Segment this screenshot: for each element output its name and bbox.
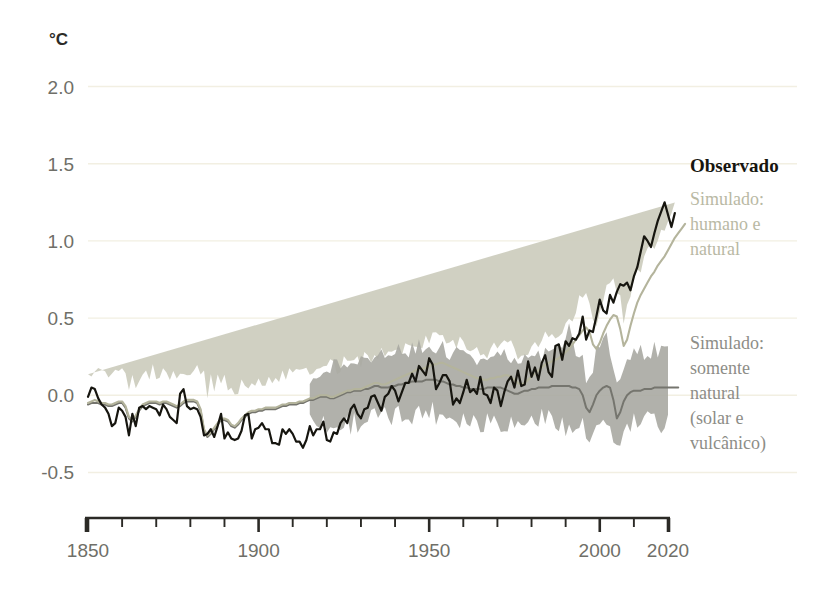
y-tick-label: -0.5 (41, 462, 74, 483)
climate-attribution-chart: -0.50.00.51.01.52.018501900195020002020°… (0, 0, 840, 592)
y-tick-label: 2.0 (48, 77, 74, 98)
x-tick-label: 1950 (408, 540, 450, 561)
x-tick-label: 2020 (647, 540, 689, 561)
y-axis-labels: -0.50.00.51.01.52.0 (41, 77, 74, 484)
y-axis-unit-label: °C (49, 30, 68, 49)
legend-label-natural-only-line: (solar e (690, 408, 743, 429)
x-axis (85, 518, 670, 532)
y-tick-label: 1.5 (48, 154, 74, 175)
legend-label-human-natural-line: Simulado: (690, 189, 764, 209)
legend-label-natural-only-line: somente (690, 358, 750, 378)
legend-label-natural-only-line: Simulado: (690, 333, 764, 353)
legend-label-human-natural-line: natural (690, 239, 740, 259)
legend-label-observado: Observado (690, 155, 779, 176)
y-tick-label: 0.5 (48, 308, 74, 329)
x-tick-label: 2000 (579, 540, 621, 561)
legend-label-natural-only-line: vulcânico) (690, 433, 766, 454)
x-tick-label: 1900 (237, 540, 279, 561)
legend-label-natural-only-line: natural (690, 383, 740, 403)
legend-label-human-natural-line: humano e (690, 214, 760, 234)
x-tick-label: 1850 (67, 540, 109, 561)
chart-svg: -0.50.00.51.01.52.018501900195020002020°… (0, 0, 840, 592)
x-axis-labels: 18501900195020002020 (67, 540, 689, 561)
y-tick-label: 1.0 (48, 231, 74, 252)
unit-label-group: °C (49, 30, 68, 49)
y-tick-label: 0.0 (48, 385, 74, 406)
legend: ObservadoSimulado:humano enaturalSimulad… (690, 155, 779, 454)
